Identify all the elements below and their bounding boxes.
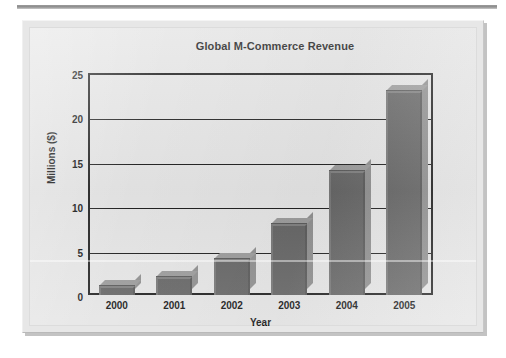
chart-canvas: Global M-Commerce Revenue Millions ($) 0… <box>29 27 477 326</box>
bar-front-face <box>329 170 365 295</box>
bar-side-face <box>192 265 198 289</box>
bar[interactable] <box>386 91 422 295</box>
bar-bevel <box>156 277 192 295</box>
bar-side-face <box>422 79 428 289</box>
bar-bevel <box>386 91 422 295</box>
chart-title: Global M-Commerce Revenue <box>80 40 470 52</box>
x-axis-tick-label: 2005 <box>393 300 415 311</box>
top-decorative-rule <box>17 5 497 9</box>
bar-bevel <box>214 259 250 295</box>
bar[interactable] <box>156 277 192 295</box>
bar-bevel <box>329 171 365 295</box>
bar-bevel <box>271 224 307 295</box>
x-axis-tick-labels: 200020012002200320042005 <box>88 300 433 316</box>
bar-front-face <box>386 90 422 295</box>
x-axis-title: Year <box>88 317 433 328</box>
x-axis-tick-label: 2004 <box>336 300 358 311</box>
x-axis-tick-label: 2003 <box>278 300 300 311</box>
bars-group <box>88 73 433 295</box>
bar-side-face <box>307 212 313 289</box>
bar-front-face <box>214 258 250 295</box>
x-axis-tick-label: 2000 <box>106 300 128 311</box>
bar-slot <box>271 73 307 295</box>
bar-slot <box>99 73 135 295</box>
bar-slot <box>329 73 365 295</box>
bar-slot <box>214 73 250 295</box>
x-axis-tick-label: 2001 <box>163 300 185 311</box>
bar-front-face <box>156 276 192 295</box>
x-axis-tick-label: 2002 <box>221 300 243 311</box>
bar-side-face <box>365 159 371 289</box>
chart-figure-frame: Global M-Commerce Revenue Millions ($) 0… <box>22 20 484 333</box>
bar-front-face <box>271 223 307 295</box>
bar[interactable] <box>329 171 365 295</box>
bar-bevel <box>99 286 135 295</box>
chart-title-wrap: Global M-Commerce Revenue <box>80 40 470 52</box>
bar[interactable] <box>271 224 307 295</box>
bar-front-face <box>99 285 135 295</box>
bar-slot <box>156 73 192 295</box>
y-axis-title: Millions ($) <box>46 132 57 184</box>
bar[interactable] <box>214 259 250 295</box>
bar-slot <box>386 73 422 295</box>
bar[interactable] <box>99 286 135 295</box>
